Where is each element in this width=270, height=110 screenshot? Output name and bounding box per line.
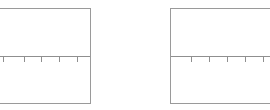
tick-mark (3, 57, 4, 62)
tick-mark (263, 57, 264, 62)
tick-mark (77, 57, 78, 62)
tick-mark (41, 57, 42, 62)
tick-mark (245, 57, 246, 62)
right-panel-x-axis (171, 56, 270, 57)
right-plot-panel[interactable] (170, 8, 270, 104)
tick-mark (227, 57, 228, 62)
tick-mark (59, 57, 60, 62)
left-panel-tick-group (0, 57, 90, 62)
left-panel-x-axis (0, 56, 90, 57)
tick-mark (209, 57, 210, 62)
tick-mark (24, 57, 25, 62)
figure-canvas (0, 0, 270, 110)
left-plot-panel[interactable] (0, 8, 91, 104)
tick-mark (191, 57, 192, 62)
right-panel-tick-group (171, 57, 270, 62)
